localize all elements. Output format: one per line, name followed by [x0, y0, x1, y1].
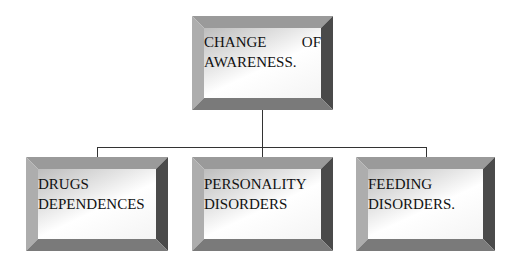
label-line1: CHANGE: [204, 32, 267, 52]
label-line2: DISORDERS.: [368, 194, 483, 214]
connector-right-down: [426, 147, 427, 157]
connector-root-down: [262, 110, 263, 157]
label-line1: PERSONALITY: [204, 174, 321, 194]
node-feeding-disorders: FEEDING DISORDERS.: [356, 157, 495, 251]
connector-horizontal: [97, 147, 427, 148]
label-line2: DEPENDENCES: [38, 194, 156, 214]
label-line1b: OF: [302, 32, 321, 52]
node-label: DRUGS DEPENDENCES: [38, 174, 156, 214]
node-drugs-dependences: DRUGS DEPENDENCES: [26, 157, 168, 251]
node-label: FEEDING DISORDERS.: [368, 174, 483, 214]
label-line1: DRUGS: [38, 174, 156, 194]
node-label: PERSONALITY DISORDERS: [204, 174, 321, 214]
label-line1: FEEDING: [368, 174, 483, 194]
label-line2: DISORDERS: [204, 194, 321, 214]
node-change-of-awareness: CHANGEOF AWARENESS.: [192, 16, 333, 110]
node-label: CHANGEOF AWARENESS.: [204, 32, 321, 72]
label-line2: AWARENESS.: [204, 52, 321, 72]
connector-left-down: [97, 147, 98, 157]
node-personality-disorders: PERSONALITY DISORDERS: [192, 157, 333, 251]
